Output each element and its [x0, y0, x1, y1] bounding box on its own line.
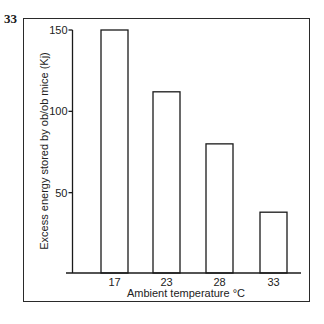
- y-axis: 50100150: [49, 24, 72, 273]
- bars: [101, 30, 287, 273]
- y-tick-label: 100: [49, 105, 67, 117]
- x-axis: 17232833: [66, 273, 301, 288]
- bar-33: [260, 212, 287, 273]
- bar-chart: 50100150 17232833 Excess energy stored b…: [0, 0, 324, 324]
- x-tick-label: 17: [108, 276, 120, 288]
- bar-28: [206, 144, 233, 273]
- bar-23: [153, 92, 180, 273]
- y-axis-title: Excess energy stored by ob/ob mice (Kj): [38, 52, 50, 249]
- x-axis-title: Ambient temperature °C: [127, 287, 245, 299]
- y-tick-label: 150: [49, 24, 67, 36]
- x-tick-label: 33: [267, 276, 279, 288]
- bar-17: [101, 30, 128, 273]
- y-tick-label: 50: [55, 187, 67, 199]
